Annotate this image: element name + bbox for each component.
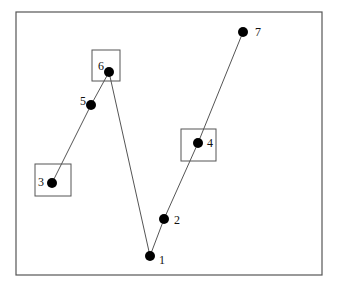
highlight-box-6: [92, 50, 120, 81]
point-3: [47, 178, 57, 188]
plot-frame: [16, 12, 322, 275]
point-7: [238, 27, 248, 37]
point-label-2: 2: [174, 213, 180, 227]
point-1: [145, 251, 155, 261]
point-5: [86, 100, 96, 110]
point-label-4: 4: [207, 136, 213, 150]
diagram-canvas: 1234567: [0, 0, 338, 287]
point-2: [159, 214, 169, 224]
labels-layer: 1234567: [38, 25, 261, 267]
point-label-6: 6: [98, 59, 104, 73]
point-label-7: 7: [255, 25, 261, 39]
point-label-1: 1: [159, 253, 165, 267]
point-label-3: 3: [38, 175, 44, 189]
point-4: [193, 138, 203, 148]
connecting-line: [52, 32, 243, 256]
point-label-5: 5: [80, 94, 86, 108]
point-6: [104, 67, 114, 77]
points-layer: [47, 27, 248, 261]
highlight-boxes: [35, 50, 216, 196]
